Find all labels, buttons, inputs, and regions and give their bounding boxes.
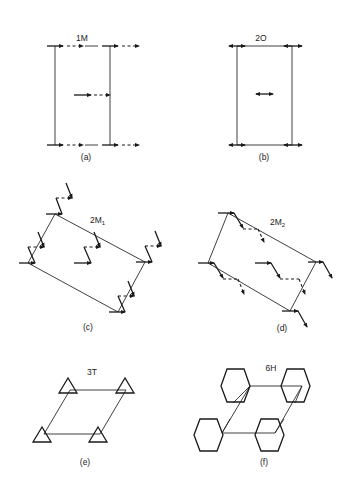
panel-d-title-sub: 2 xyxy=(282,222,286,228)
panel-d-title: 2M xyxy=(270,217,282,227)
panel-e-title: 3T xyxy=(87,367,97,377)
panel-a-caption: (a) xyxy=(81,152,92,162)
panel-b-caption: (b) xyxy=(259,152,270,162)
polytype-diagram: 1M (a) 2O (b) 2M1 xyxy=(0,0,354,492)
panel-c: 2M1 xyxy=(19,183,161,332)
panel-f-title: 6H xyxy=(266,363,277,373)
panel-c-title: 2M xyxy=(90,215,102,225)
panel-e-caption: (e) xyxy=(80,457,91,467)
svg-text:2M2: 2M2 xyxy=(270,217,286,228)
panel-d: 2M2 (d) xyxy=(198,213,332,333)
panel-f-caption: (f) xyxy=(260,457,268,467)
panel-a: 1M (a) xyxy=(47,33,139,162)
panel-e: 3T (e) xyxy=(33,367,134,467)
panel-d-caption: (d) xyxy=(277,323,288,333)
panel-f: 6H (f) xyxy=(194,363,310,467)
panel-c-title-sub: 1 xyxy=(102,220,106,226)
panel-c-caption: (c) xyxy=(83,322,93,332)
panel-b-title: 2O xyxy=(255,33,267,43)
panel-a-title: 1M xyxy=(76,33,88,43)
panel-b: 2O (b) xyxy=(229,33,302,162)
svg-text:2M1: 2M1 xyxy=(90,215,106,226)
